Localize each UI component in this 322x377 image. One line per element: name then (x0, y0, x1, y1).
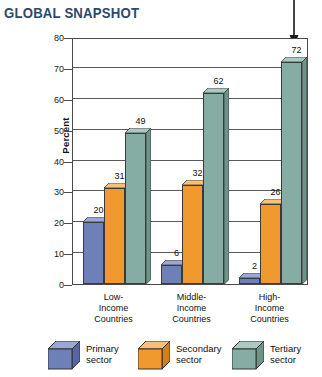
legend-label-primary: Primarysector (86, 343, 119, 365)
y-tick-mark (64, 254, 72, 255)
bar-front-face (125, 133, 146, 284)
y-tick-label: 0 (24, 280, 64, 290)
x-label-line: Income (230, 303, 310, 314)
bar-side-face (302, 57, 307, 284)
legend-label-line: sector (270, 354, 301, 365)
legend-label-tertiary: Tertiarysector (270, 343, 301, 365)
x-label-line: Low- (74, 292, 154, 303)
x-category-label-2: High-IncomeCountries (230, 292, 310, 325)
y-tick-mark (64, 131, 72, 132)
y-tick-label: 50 (24, 126, 64, 136)
y-tick-mark (64, 223, 72, 224)
gridline (73, 129, 307, 130)
bar-front-face (260, 204, 281, 284)
bar-value-label: 62 (202, 76, 235, 86)
x-label-line: Middle- (152, 292, 232, 303)
x-label-line: Countries (152, 314, 232, 325)
x-label-line: Countries (230, 314, 310, 325)
legend-label-line: Primary (86, 343, 119, 354)
y-tick-label: 20 (24, 218, 64, 228)
bar-front-face (239, 278, 260, 284)
bar-side-face (146, 128, 151, 284)
page-title: GLOBAL SNAPSHOT (4, 4, 139, 21)
legend-cube-icon (48, 341, 80, 371)
bar-value-label: 72 (280, 45, 313, 55)
bar-secondary-1 (182, 185, 203, 284)
legend-label-line: Tertiary (270, 343, 301, 354)
y-tick-mark (64, 100, 72, 101)
y-tick-mark (64, 38, 72, 39)
gridline (73, 67, 307, 68)
y-tick-label: 40 (24, 157, 64, 167)
y-tick-label: 60 (24, 95, 64, 105)
gridline (73, 98, 307, 99)
legend-label-line: sector (176, 354, 221, 365)
y-tick-label: 80 (24, 33, 64, 43)
x-label-line: Countries (74, 314, 154, 325)
chart-legend: PrimarysectorSecondarysectorTertiarysect… (0, 336, 322, 377)
bar-primary-0 (83, 222, 104, 284)
bar-front-face (203, 93, 224, 284)
x-label-line: Income (152, 303, 232, 314)
legend-cube-icon (232, 341, 264, 371)
bar-secondary-2 (260, 204, 281, 284)
bar-secondary-0 (104, 188, 125, 284)
plot-area: 2031496326222672 (72, 38, 308, 285)
bar-front-face (104, 188, 125, 284)
y-tick-mark (64, 192, 72, 193)
x-label-line: Income (74, 303, 154, 314)
bar-tertiary-0 (125, 133, 146, 284)
bar-primary-1 (161, 265, 182, 284)
bar-tertiary-1 (203, 93, 224, 284)
x-label-line: High- (230, 292, 310, 303)
bar-value-label: 49 (124, 116, 157, 126)
x-category-label-1: Middle-IncomeCountries (152, 292, 232, 325)
bar-primary-2 (239, 278, 260, 284)
bar-front-face (281, 62, 302, 284)
legend-cube-icon (138, 341, 170, 371)
bar-side-face (224, 88, 229, 284)
y-tick-label: 30 (24, 187, 64, 197)
bar-tertiary-2 (281, 62, 302, 284)
y-tick-mark (64, 69, 72, 70)
bar-front-face (161, 265, 182, 284)
y-tick-mark (64, 285, 72, 286)
y-tick-mark (64, 162, 72, 163)
legend-label-secondary: Secondarysector (176, 343, 221, 365)
y-tick-label: 10 (24, 249, 64, 259)
legend-label-line: sector (86, 354, 119, 365)
bar-front-face (83, 222, 104, 284)
gridline (73, 160, 307, 161)
y-tick-label: 70 (24, 64, 64, 74)
bar-front-face (182, 185, 203, 284)
legend-label-line: Secondary (176, 343, 221, 354)
x-category-label-0: Low-IncomeCountries (74, 292, 154, 325)
